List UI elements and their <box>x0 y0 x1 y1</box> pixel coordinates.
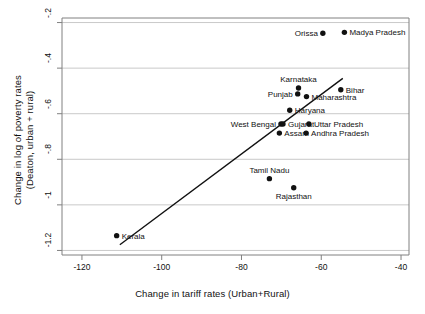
data-point-label: Tamil Nadu <box>249 166 289 175</box>
y-tick-label: -.2 <box>43 3 53 23</box>
data-point-label: Andhra Pradesh <box>311 129 369 138</box>
x-tick-label: -60 <box>315 262 327 272</box>
data-point-label: Haryana <box>295 106 325 115</box>
trend-line <box>120 78 343 244</box>
y-tick-label: -.6 <box>43 94 53 114</box>
y-axis-title: Change in log of poverty rates (Deaton, … <box>12 20 36 260</box>
data-point-label: Karnataka <box>280 75 316 84</box>
data-point-label: Gujarat <box>288 119 314 128</box>
x-tick-label: -120 <box>73 262 90 272</box>
data-point-label: Uttar Pradesh <box>314 119 363 128</box>
data-point <box>287 108 292 113</box>
plot-canvas <box>0 0 425 314</box>
data-point <box>320 31 325 36</box>
data-point <box>291 185 296 190</box>
data-point-label: Rajasthan <box>276 192 312 201</box>
y-tick-label: -1 <box>43 185 53 205</box>
data-point-label: Bihar <box>346 85 365 94</box>
data-point-label: Assam <box>284 129 308 138</box>
y-axis-title-line1: Change in log of poverty rates <box>12 75 23 205</box>
scatter-plot-figure: Change in tariff rates (Urban+Rural) Cha… <box>0 0 425 314</box>
data-point <box>304 94 309 99</box>
data-point-label: Kerala <box>122 231 145 240</box>
x-axis-title: Change in tariff rates (Urban+Rural) <box>0 288 425 299</box>
data-point <box>295 91 300 96</box>
axis-ticks <box>57 23 401 260</box>
data-point <box>342 30 347 35</box>
data-point <box>114 233 119 238</box>
x-tick-label: -80 <box>235 262 247 272</box>
data-point <box>296 85 301 90</box>
data-point <box>267 176 272 181</box>
data-point-label: Punjab <box>268 89 293 98</box>
y-tick-label: -1.2 <box>43 230 53 250</box>
data-point-label: Madya Pradesh <box>349 28 405 37</box>
data-point <box>280 121 285 126</box>
y-axis-title-line2: (Deaton, urban + rural) <box>24 91 35 190</box>
x-tick-label: -40 <box>395 262 407 272</box>
y-tick-label: -.4 <box>43 48 53 68</box>
x-tick-label: -100 <box>153 262 170 272</box>
data-point-label: Orissa <box>295 29 318 38</box>
y-tick-label: -.8 <box>43 139 53 159</box>
data-point <box>277 130 282 135</box>
data-point-label: West Bengal <box>231 119 276 128</box>
